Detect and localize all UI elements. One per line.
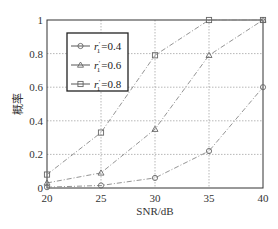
y-axis-ticks: 00.20.40.60.81: [29, 14, 43, 194]
x-tick-label: 35: [204, 192, 216, 204]
y-axis-label: 概率: [11, 93, 24, 115]
y-tick-label: 0.2: [29, 148, 43, 160]
x-tick-label: 40: [258, 192, 270, 204]
legend: r′1=0.4r′1=0.6r′1=0.8: [67, 33, 128, 93]
x-tick-label: 30: [150, 192, 162, 204]
y-tick-label: 0.4: [29, 115, 43, 127]
line-chart: 00.20.40.60.81 2025303540 SNR/dB 概率 r′1=…: [0, 0, 278, 229]
x-axis-ticks: 2025303540: [42, 192, 270, 204]
y-tick-label: 0.6: [29, 81, 43, 93]
y-tick-label: 1: [38, 14, 44, 26]
y-tick-label: 0.8: [29, 48, 43, 60]
x-tick-label: 20: [42, 192, 54, 204]
x-tick-label: 25: [96, 192, 108, 204]
x-axis-label: SNR/dB: [136, 205, 173, 217]
